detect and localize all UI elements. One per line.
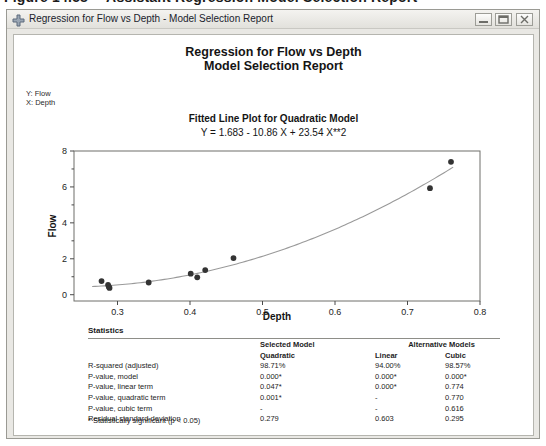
window-title: Regression for Flow vs Depth - Model Sel… xyxy=(29,13,273,24)
maximize-button[interactable] xyxy=(495,13,512,26)
statistics-section-label: Statistics xyxy=(88,326,124,335)
stat-quadratic: 0.000* xyxy=(260,372,375,383)
y-tick-label: 2 xyxy=(62,254,67,264)
x-axis-tick-labels: 0.30.40.50.60.70.8 xyxy=(111,307,486,317)
y-tick-label: 6 xyxy=(62,182,67,192)
stat-linear: 0.603 xyxy=(375,414,445,425)
minitab-plus-icon xyxy=(12,13,25,26)
stat-linear: 94.00% xyxy=(375,361,445,372)
y-tick-label: 4 xyxy=(62,218,67,228)
stat-quadratic: 0.279 xyxy=(260,414,375,425)
statistics-footnote: * Statistically significant (p < 0.05) xyxy=(88,416,200,425)
x-tick-label: 0.3 xyxy=(111,307,124,317)
data-point xyxy=(99,278,105,284)
stat-linear: 0.000* xyxy=(375,372,445,383)
fitted-line-plot: 02468 0.30.40.50.60.70.8 Flow Depth xyxy=(34,143,520,323)
table-row: R-squared (adjusted)98.71%94.00%98.57% xyxy=(88,361,508,372)
table-row: P-value, linear term0.047*0.000*0.774 xyxy=(88,382,508,393)
close-icon xyxy=(517,14,532,25)
stat-cubic: 0.770 xyxy=(445,393,508,404)
stat-label: P-value, cubic term xyxy=(88,404,260,415)
data-point xyxy=(194,274,200,280)
group-header-alternative: Alternative Models xyxy=(375,340,508,351)
table-group-header-row: Selected Model Alternative Models xyxy=(88,340,508,351)
plot-title: Fitted Line Plot for Quadratic Model xyxy=(14,113,533,124)
window-titlebar[interactable]: Regression for Flow vs Depth - Model Sel… xyxy=(7,10,539,29)
table-row: P-value, quadratic term0.001*-0.770 xyxy=(88,393,508,404)
plot-equation: Y = 1.683 - 10.86 X + 23.54 X**2 xyxy=(14,127,533,138)
stat-linear: 0.000* xyxy=(375,382,445,393)
group-header-spacer xyxy=(88,340,260,351)
y-axis-title: Flow xyxy=(47,214,58,237)
table-column-header-row: Quadratic Linear Cubic xyxy=(88,351,508,362)
x-axis-title: Depth xyxy=(263,311,291,322)
column-header-cubic: Cubic xyxy=(445,351,508,362)
y-axis-tick-labels: 02468 xyxy=(62,146,67,300)
stat-cubic: 0.616 xyxy=(445,404,508,415)
stat-linear: - xyxy=(375,404,445,415)
stat-cubic: 0.295 xyxy=(445,414,508,425)
x-tick-label: 0.7 xyxy=(401,307,414,317)
column-header-linear: Linear xyxy=(375,351,445,362)
data-point xyxy=(427,185,433,191)
stat-label: P-value, quadratic term xyxy=(88,393,260,404)
data-point xyxy=(188,271,194,277)
stat-quadratic: 0.047* xyxy=(260,382,375,393)
report-canvas: Regression for Flow vs Depth Model Selec… xyxy=(13,34,534,436)
statistics-section: Statistics Selected Model Alternative Mo… xyxy=(42,326,512,432)
data-point xyxy=(448,159,454,165)
close-button[interactable] xyxy=(516,13,533,26)
maximize-icon xyxy=(496,14,511,25)
application-window: Regression for Flow vs Depth - Model Sel… xyxy=(6,9,540,439)
y-tick-label: 0 xyxy=(62,290,67,300)
group-header-selected: Selected Model xyxy=(260,340,375,351)
stat-cubic: 0.774 xyxy=(445,382,508,393)
statistics-divider xyxy=(88,338,500,339)
stat-label: R-squared (adjusted) xyxy=(88,361,260,372)
y-variable-label: Y: Flow xyxy=(26,89,55,98)
report-title: Regression for Flow vs Depth xyxy=(14,45,533,59)
statistics-table: Selected Model Alternative Models Quadra… xyxy=(88,340,508,425)
stat-linear: - xyxy=(375,393,445,404)
plot-svg: 02468 0.30.40.50.60.70.8 Flow Depth xyxy=(34,143,520,323)
data-point xyxy=(231,255,237,261)
stat-quadratic: 0.001* xyxy=(260,393,375,404)
figure-caption: Figure 14.58Assistant Regression Model S… xyxy=(0,0,546,8)
stat-quadratic: 98.71% xyxy=(260,361,375,372)
x-axis-ticks xyxy=(118,301,481,305)
y-axis-ticks xyxy=(70,151,74,295)
x-tick-label: 0.6 xyxy=(329,307,342,317)
data-point xyxy=(146,280,152,286)
stat-label: P-value, model xyxy=(88,372,260,383)
stat-quadratic: - xyxy=(260,404,375,415)
stat-label: P-value, linear term xyxy=(88,382,260,393)
figure-number: Figure 14.58 xyxy=(4,0,88,5)
x-tick-label: 0.4 xyxy=(184,307,197,317)
column-header-label xyxy=(88,351,260,362)
data-point xyxy=(202,267,208,273)
figure-caption-text: Assistant Regression Model Selection Rep… xyxy=(106,0,417,5)
x-tick-label: 0.8 xyxy=(474,307,487,317)
axis-variable-legend: Y: Flow X: Depth xyxy=(26,89,55,107)
x-variable-label: X: Depth xyxy=(26,98,55,107)
report-subtitle: Model Selection Report xyxy=(14,59,533,73)
table-row: P-value, cubic term--0.616 xyxy=(88,404,508,415)
minimize-button[interactable] xyxy=(475,13,492,26)
stat-cubic: 0.000* xyxy=(445,372,508,383)
stat-cubic: 98.57% xyxy=(445,361,508,372)
plot-frame xyxy=(74,151,480,301)
column-header-quadratic: Quadratic xyxy=(260,351,375,362)
minimize-icon xyxy=(476,14,491,25)
data-point xyxy=(107,285,113,291)
table-row: P-value, model0.000*0.000*0.000* xyxy=(88,372,508,383)
y-tick-label: 8 xyxy=(62,146,67,156)
